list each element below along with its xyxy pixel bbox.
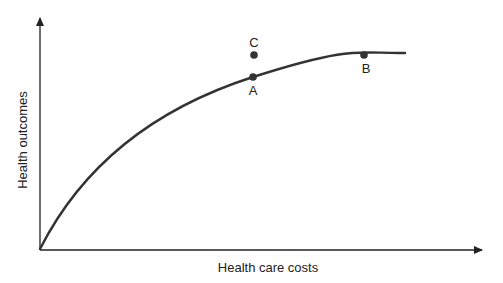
point-b-label: B [362, 61, 371, 76]
x-axis-label: Health care costs [218, 260, 319, 275]
chart: A B C Health care costs Health outcomes [0, 0, 503, 283]
point-a-marker [249, 73, 257, 81]
health-production-curve [40, 52, 405, 249]
point-b-marker [360, 51, 368, 59]
point-a-label: A [249, 83, 258, 98]
y-axis-label: Health outcomes [15, 91, 30, 189]
point-c-marker [250, 51, 258, 59]
point-c-label: C [249, 35, 258, 50]
chart-canvas: A B C Health care costs Health outcomes [0, 0, 503, 283]
